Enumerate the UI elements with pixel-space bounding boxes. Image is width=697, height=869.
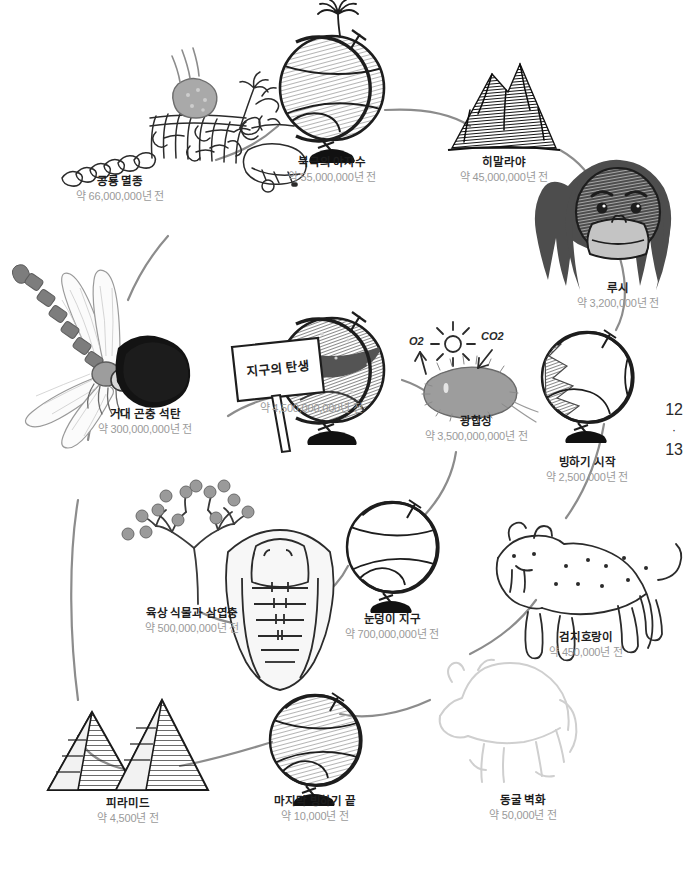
label-date: 약 3,500,000,000년 전	[396, 430, 556, 444]
label-lucy: 루시 약 3,200,000년 전	[538, 281, 697, 311]
pyramid-icon	[48, 700, 208, 790]
label-title: 눈덩이 지구	[312, 612, 472, 626]
bison-outline-icon	[440, 660, 577, 782]
label-title: 거대 곤충 석탄	[65, 407, 225, 421]
label-earth-birth: 약 4,500,000,000년 전	[216, 400, 406, 416]
label-photosynthesis: 광합성 약 3,500,000,000년 전	[396, 414, 556, 444]
label-date: 약 300,000,000년 전	[65, 423, 225, 437]
folio-right: 13	[665, 442, 683, 458]
label-date: 약 50,000년 전	[443, 809, 603, 823]
label-title: 동굴 벽화	[443, 793, 603, 807]
label-title: 빙하기 시작	[507, 455, 667, 469]
label-giant-insect-coal: 거대 곤충 석탄 약 300,000,000년 전	[65, 407, 225, 437]
label-title: 북극의 야자수	[252, 155, 412, 169]
label-title: 마지막 빙하기 끝	[235, 794, 395, 808]
label-ice-age-start: 빙하기 시작 약 2,500,000년 전	[507, 455, 667, 485]
folio-left: 12	[665, 402, 683, 418]
label-title: 루시	[538, 281, 697, 295]
label-date: 약 450,000년 전	[506, 646, 666, 660]
cyanobacteria-icon	[415, 322, 538, 424]
meteor-icon	[172, 48, 217, 118]
label-date: 약 10,000년 전	[235, 810, 395, 824]
mountain-icon	[448, 64, 560, 150]
label-dinosaur-extinction: 공룡 멸종 약 66,000,000년 전	[35, 174, 205, 204]
label-date: 약 700,000,000년 전	[312, 628, 472, 642]
label-pyramid: 피라미드 약 4,500년 전	[48, 796, 208, 826]
label-land-plants-trilobite: 육상 식물과 삼엽충 약 500,000,000년 전	[97, 606, 287, 636]
label-saber-tooth-tiger: 검치호랑이 약 450,000년 전	[506, 630, 666, 660]
globe-icon	[268, 693, 366, 806]
label-date: 약 3,200,000년 전	[538, 297, 697, 311]
label-date: 약 4,500년 전	[48, 812, 208, 826]
oxygen-label: O2	[409, 335, 424, 347]
folio-page-numbers: 12 · 13	[665, 402, 683, 458]
label-title: 공룡 멸종	[35, 174, 205, 188]
globe-snowball-icon	[345, 500, 443, 613]
label-title: 육상 식물과 삼엽충	[97, 606, 287, 620]
label-date: 약 2,500,000년 전	[507, 471, 667, 485]
label-title: 검치호랑이	[506, 630, 666, 644]
label-title: 광합성	[396, 414, 556, 428]
label-himalaya: 히말라야 약 45,000,000년 전	[424, 155, 584, 185]
carbon-dioxide-label: CO2	[481, 330, 504, 342]
label-date: 약 66,000,000년 전	[35, 190, 205, 204]
folio-separator: ·	[665, 424, 683, 436]
globe-palm-icon	[272, 0, 390, 163]
label-date: 약 4,500,000,000년 전	[216, 402, 406, 416]
label-title: 피라미드	[48, 796, 208, 810]
label-last-ice-age-end: 마지막 빙하기 끝 약 10,000년 전	[235, 794, 395, 824]
label-snowball-earth: 눈덩이 지구 약 700,000,000년 전	[312, 612, 472, 642]
label-title: 히말라야	[424, 155, 584, 169]
label-cave-painting: 동굴 벽화 약 50,000년 전	[443, 793, 603, 823]
label-arctic-palm: 북극의 야자수 약 55,000,000년 전	[252, 155, 412, 185]
label-date: 약 55,000,000년 전	[252, 171, 412, 185]
label-date: 약 500,000,000년 전	[97, 622, 287, 636]
earth-history-timeline-page: 지구의 탄생 O2 CO2 공룡 멸종 약 66,000,000년 전 북극의 …	[0, 0, 697, 869]
plant-trilobite-icon	[122, 480, 334, 690]
label-date: 약 45,000,000년 전	[424, 171, 584, 185]
